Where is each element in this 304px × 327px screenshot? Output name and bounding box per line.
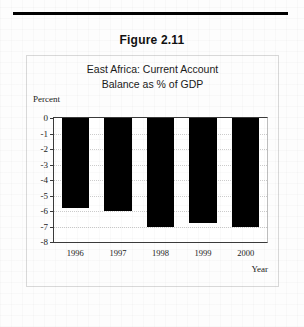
figure-page: Figure 2.11 East Africa: Current Account… bbox=[0, 0, 304, 327]
y-tick-label: -3 bbox=[41, 160, 49, 170]
y-tick-label: 0 bbox=[44, 113, 49, 123]
y-tick-mark bbox=[50, 165, 54, 166]
y-tick-label: -8 bbox=[41, 237, 49, 247]
x-tick-label: 1999 bbox=[195, 248, 212, 258]
figure-border-box: East Africa: Current Account Balance as … bbox=[26, 55, 279, 287]
y-tick-mark bbox=[50, 196, 54, 197]
bar bbox=[62, 118, 89, 208]
y-tick-mark bbox=[50, 134, 54, 135]
chart-title-line-1: East Africa: Current Account bbox=[27, 63, 278, 75]
bar bbox=[232, 118, 259, 227]
y-tick-mark bbox=[50, 118, 54, 119]
y-tick-label: -1 bbox=[41, 129, 49, 139]
y-tick-mark bbox=[50, 211, 54, 212]
x-tick-label: 1998 bbox=[152, 248, 169, 258]
bar bbox=[147, 118, 174, 227]
y-tick-label: -2 bbox=[41, 144, 49, 154]
y-tick-label: -5 bbox=[41, 191, 49, 201]
y-tick-label: -6 bbox=[41, 206, 49, 216]
y-tick-label: -4 bbox=[41, 175, 49, 185]
y-axis-title: Percent bbox=[33, 94, 60, 104]
chart-title-line-2: Balance as % of GDP bbox=[27, 78, 278, 90]
y-tick-label: -7 bbox=[41, 222, 49, 232]
x-axis-title: Year bbox=[251, 264, 268, 274]
top-horizontal-rule bbox=[13, 12, 288, 15]
figure-caption: Figure 2.11 bbox=[0, 33, 304, 47]
y-tick-mark bbox=[50, 227, 54, 228]
plot-area: 0-1-2-3-4-5-6-7-8 19961997199819992000 bbox=[53, 117, 268, 243]
y-tick-mark bbox=[50, 149, 54, 150]
x-tick-label: 1997 bbox=[109, 248, 126, 258]
bar bbox=[189, 118, 216, 223]
x-tick-label: 1996 bbox=[67, 248, 84, 258]
gridline bbox=[54, 227, 267, 228]
x-tick-label: 2000 bbox=[237, 248, 254, 258]
bar bbox=[104, 118, 131, 211]
y-tick-mark bbox=[50, 180, 54, 181]
y-tick-mark bbox=[50, 242, 54, 243]
